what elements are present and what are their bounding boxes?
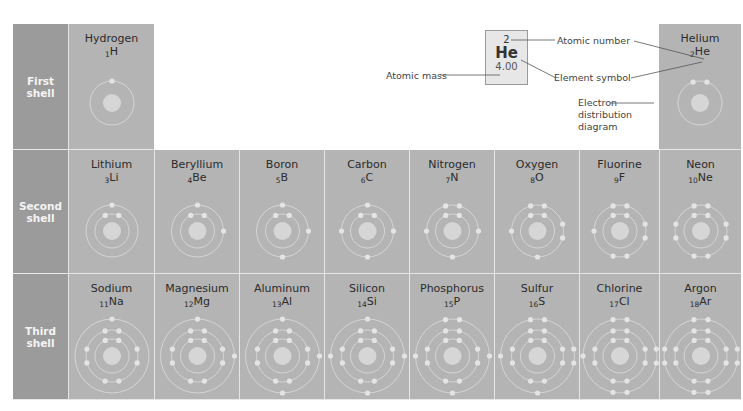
element-name: Argon bbox=[660, 282, 741, 295]
element-name: Oxygen bbox=[495, 158, 579, 171]
element-cell-argon: Argon18Ar bbox=[659, 274, 741, 400]
element-symbol: 14Si bbox=[325, 295, 409, 309]
element-symbol: 12Mg bbox=[155, 295, 239, 309]
symbol-text: N bbox=[450, 171, 458, 184]
row-label-text: shell bbox=[19, 212, 62, 224]
legend-key-box: 2 He 4.00 bbox=[485, 30, 528, 85]
atomic-number: 14 bbox=[357, 300, 367, 309]
element-symbol: 1H bbox=[69, 45, 154, 59]
symbol-text: B bbox=[281, 171, 289, 184]
row-label-text: shell bbox=[26, 87, 54, 99]
element-symbol: 2He bbox=[659, 45, 741, 59]
element-symbol: 16S bbox=[495, 295, 579, 309]
atomic-number: 11 bbox=[99, 300, 109, 309]
element-name: Sulfur bbox=[495, 282, 579, 295]
element-name: Phosphorus bbox=[410, 282, 494, 295]
symbol-text: Cl bbox=[619, 295, 630, 308]
element-cell-carbon: Carbon6C bbox=[324, 150, 409, 274]
element-symbol: 8O bbox=[495, 171, 579, 185]
element-name: Chlorine bbox=[580, 282, 659, 295]
element-name: Helium bbox=[659, 32, 741, 45]
symbol-text: Al bbox=[281, 295, 292, 308]
row-label-text: Third bbox=[25, 325, 56, 337]
element-symbol: 17Cl bbox=[580, 295, 659, 309]
key-atomic-mass: 4.00 bbox=[486, 61, 527, 72]
element-cell-hydrogen: Hydrogen1H bbox=[68, 24, 154, 150]
annotation-line: Electron bbox=[578, 97, 632, 109]
atomic-number: 10 bbox=[688, 176, 698, 185]
atomic-number: 12 bbox=[184, 300, 194, 309]
element-symbol: 10Ne bbox=[660, 171, 741, 185]
symbol-text: O bbox=[535, 171, 544, 184]
element-name: Hydrogen bbox=[69, 32, 154, 45]
symbol-text: Ar bbox=[699, 295, 711, 308]
element-cell-neon: Neon10Ne bbox=[659, 150, 741, 274]
symbol-text: S bbox=[538, 295, 545, 308]
element-name: Beryllium bbox=[155, 158, 239, 171]
element-cell-boron: Boron5B bbox=[239, 150, 324, 274]
element-symbol: 3Li bbox=[69, 171, 154, 185]
element-symbol: 18Ar bbox=[660, 295, 741, 309]
element-cell-phosphorus: Phosphorus15P bbox=[409, 274, 494, 400]
element-symbol: 6C bbox=[325, 171, 409, 185]
annotation-line: distribution bbox=[578, 109, 632, 121]
row-label-text: shell bbox=[25, 337, 56, 349]
element-symbol: 11Na bbox=[69, 295, 154, 309]
element-name: Neon bbox=[660, 158, 741, 171]
element-symbol: 15P bbox=[410, 295, 494, 309]
element-name: Aluminum bbox=[240, 282, 324, 295]
element-cell-beryllium: Beryllium4Be bbox=[154, 150, 239, 274]
element-symbol: 4Be bbox=[155, 171, 239, 185]
element-name: Silicon bbox=[325, 282, 409, 295]
element-symbol: 13Al bbox=[240, 295, 324, 309]
symbol-text: C bbox=[366, 171, 374, 184]
element-name: Magnesium bbox=[155, 282, 239, 295]
element-cell-sodium: Sodium11Na bbox=[68, 274, 154, 400]
element-cell-silicon: Silicon14Si bbox=[324, 274, 409, 400]
symbol-text: Na bbox=[109, 295, 124, 308]
row-label-text: First bbox=[26, 75, 54, 87]
element-name: Sodium bbox=[69, 282, 154, 295]
element-cell-magnesium: Magnesium12Mg bbox=[154, 274, 239, 400]
row-label-third-shell: Thirdshell bbox=[13, 274, 68, 400]
element-cell-sulfur: Sulfur16S bbox=[494, 274, 579, 400]
atomic-number: 18 bbox=[690, 300, 700, 309]
element-name: Boron bbox=[240, 158, 324, 171]
symbol-text: Mg bbox=[194, 295, 210, 308]
element-cell-helium: Helium2He bbox=[659, 24, 741, 150]
element-name: Lithium bbox=[69, 158, 154, 171]
key-element-symbol: He bbox=[486, 45, 527, 61]
row-label-text: Second bbox=[19, 200, 62, 212]
element-symbol: 5B bbox=[240, 171, 324, 185]
symbol-text: Li bbox=[109, 171, 118, 184]
element-cell-oxygen: Oxygen8O bbox=[494, 150, 579, 274]
symbol-text: F bbox=[619, 171, 625, 184]
element-cell-lithium: Lithium3Li bbox=[68, 150, 154, 274]
symbol-text: P bbox=[453, 295, 460, 308]
element-name: Carbon bbox=[325, 158, 409, 171]
element-cell-aluminum: Aluminum13Al bbox=[239, 274, 324, 400]
symbol-text: Be bbox=[192, 171, 206, 184]
annotation-element-symbol: Element symbol bbox=[554, 72, 631, 83]
annotation-line: diagram bbox=[578, 121, 632, 133]
annotation-atomic-number: Atomic number bbox=[557, 35, 630, 46]
symbol-text: He bbox=[695, 45, 710, 58]
element-cell-nitrogen: Nitrogen7N bbox=[409, 150, 494, 274]
annotation-atomic-mass: Atomic mass bbox=[386, 70, 447, 81]
row-label-second-shell: Secondshell bbox=[13, 150, 68, 274]
symbol-text: H bbox=[110, 45, 118, 58]
atomic-number: 16 bbox=[529, 300, 539, 309]
element-cell-fluorine: Fluorine9F bbox=[579, 150, 659, 274]
row-label-first-shell: Firstshell bbox=[13, 24, 68, 150]
element-name: Fluorine bbox=[580, 158, 659, 171]
element-name: Nitrogen bbox=[410, 158, 494, 171]
annotation-electron-diagram: Electron distribution diagram bbox=[578, 97, 632, 133]
symbol-text: Si bbox=[367, 295, 377, 308]
element-symbol: 9F bbox=[580, 171, 659, 185]
element-cell-chlorine: Chlorine17Cl bbox=[579, 274, 659, 400]
element-symbol: 7N bbox=[410, 171, 494, 185]
atomic-number: 17 bbox=[609, 300, 619, 309]
symbol-text: Ne bbox=[698, 171, 713, 184]
